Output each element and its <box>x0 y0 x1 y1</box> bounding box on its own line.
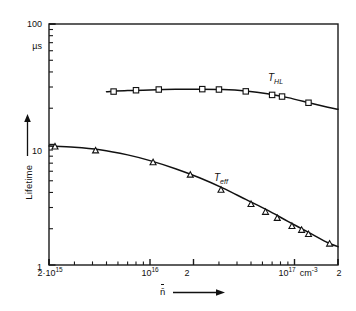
data-point-marker <box>306 100 311 105</box>
x-axis-arrow-icon <box>173 289 225 296</box>
series-label-t-eff: Teff <box>214 172 228 183</box>
data-point-marker <box>279 94 284 99</box>
x-tick-label-1: 1016 <box>132 268 168 278</box>
data-point-marker <box>243 89 248 94</box>
data-point-marker <box>156 87 161 92</box>
data-point-marker <box>133 88 138 93</box>
chart-canvas <box>0 0 356 311</box>
x-tick-label-0: 2·1015 <box>30 268 70 278</box>
y-axis-title: Lifetime <box>23 165 34 200</box>
x-tick-label-2: 2 <box>178 268 196 278</box>
x-axis-title: n̄ <box>160 286 165 297</box>
data-point-marker <box>111 89 116 94</box>
y-axis-title-wrapper: Lifetime <box>18 112 32 202</box>
data-point-marker <box>269 92 274 97</box>
y-tick-label-100: 100 <box>16 19 42 29</box>
y-axis-arrow-icon <box>24 114 31 156</box>
y-axis-unit-label: µs <box>16 41 42 51</box>
x-tick-label-4: 2 <box>330 268 348 278</box>
data-point-marker <box>200 86 205 91</box>
x-tick-label-3: 1017cm-3 <box>272 268 324 278</box>
x-axis-title-wrapper: n̄ <box>160 286 225 297</box>
series-label-t-hl: THL <box>268 72 283 83</box>
data-point-marker <box>216 87 221 92</box>
